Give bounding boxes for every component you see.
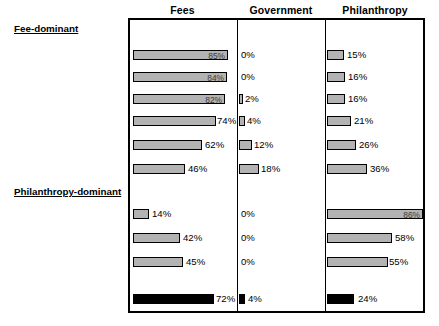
- bar-fees-social-services: [133, 116, 216, 126]
- bar-government-all-fields: [239, 294, 245, 304]
- bar-philanthropy-development-housing: [327, 94, 345, 104]
- bar-value-fees-culture-recreation: 84%: [207, 73, 224, 83]
- bar-philanthropy-health: [327, 257, 388, 267]
- bar-value-fees-health: 45%: [186, 257, 205, 267]
- bar-value-government-professional-unions: 0%: [241, 50, 255, 60]
- bar-value-philanthropy-foundations: 86%: [403, 210, 420, 220]
- column-divider-government-philanthropy: [325, 20, 327, 311]
- bar-fees-all-fields: [133, 294, 214, 304]
- bar-government-social-services: [239, 116, 245, 126]
- bar-value-government-foundations: 0%: [241, 209, 255, 219]
- group-label-philanthropy-dominant: Philanthropy-dominant: [14, 186, 121, 197]
- column-divider-fees-government: [237, 20, 239, 311]
- bar-value-philanthropy-health: 55%: [389, 257, 408, 267]
- bar-value-government-civic-advocacy: 0%: [241, 233, 255, 243]
- bar-philanthropy-culture-recreation: [327, 72, 345, 82]
- bar-value-fees-civic-advocacy: 42%: [183, 233, 202, 243]
- bar-philanthropy-all-fields: [327, 294, 354, 304]
- bar-value-government-environment: 18%: [261, 164, 280, 174]
- bar-fees-health: [133, 257, 183, 267]
- bar-fees-civic-advocacy: [133, 233, 180, 243]
- bar-government-environment: [239, 164, 259, 174]
- bar-value-fees-foundations: 14%: [152, 209, 171, 219]
- bar-philanthropy-foundations: 86%: [327, 209, 423, 219]
- bar-philanthropy-civic-advocacy: [327, 233, 392, 243]
- bar-philanthropy-social-services: [327, 116, 351, 126]
- bar-value-philanthropy-civic-advocacy: 58%: [395, 233, 414, 243]
- bar-fees-professional-unions: 85%: [133, 50, 228, 60]
- bar-value-philanthropy-social-services: 21%: [354, 116, 373, 126]
- bar-value-philanthropy-education: 26%: [359, 140, 378, 150]
- column-header-government: Government: [237, 4, 325, 16]
- bar-chart: Fees Government Philanthropy Fee-dominan…: [0, 0, 439, 326]
- bar-value-fees-all-fields: 72%: [216, 294, 235, 304]
- bar-value-government-culture-recreation: 0%: [241, 72, 255, 82]
- group-label-fee-dominant: Fee-dominant: [14, 23, 78, 34]
- bar-value-fees-education: 62%: [205, 140, 224, 150]
- bar-value-fees-social-services: 74%: [217, 116, 236, 126]
- bar-value-philanthropy-professional-unions: 15%: [347, 50, 366, 60]
- bar-value-fees-development-housing: 82%: [205, 95, 222, 105]
- bar-value-fees-environment: 46%: [188, 164, 207, 174]
- bar-fees-culture-recreation: 84%: [133, 72, 227, 82]
- bar-philanthropy-professional-unions: [327, 50, 344, 60]
- bar-fees-foundations: [133, 209, 149, 219]
- bar-value-government-development-housing: 2%: [245, 94, 259, 104]
- bar-value-philanthropy-all-fields: 24%: [358, 294, 377, 304]
- bar-philanthropy-education: [327, 140, 356, 150]
- bar-value-philanthropy-development-housing: 16%: [348, 94, 367, 104]
- bar-value-government-health: 0%: [241, 257, 255, 267]
- bar-fees-environment: [133, 164, 185, 174]
- bar-government-development-housing: [239, 94, 243, 104]
- column-header-fees: Fees: [128, 4, 237, 16]
- bar-value-government-all-fields: 4%: [248, 294, 262, 304]
- bar-value-government-education: 12%: [254, 140, 273, 150]
- column-header-philanthropy: Philanthropy: [325, 4, 425, 16]
- plot-frame: 85% 84% 82% 74% 62% 46% 14% 42% 45% 72% …: [128, 18, 425, 313]
- bar-fees-development-housing: 82%: [133, 94, 225, 104]
- bar-government-education: [239, 140, 252, 150]
- bar-philanthropy-environment: [327, 164, 367, 174]
- bar-value-fees-professional-unions: 85%: [208, 51, 225, 61]
- bar-value-philanthropy-culture-recreation: 16%: [348, 72, 367, 82]
- bar-fees-education: [133, 140, 202, 150]
- bar-value-government-social-services: 4%: [247, 116, 261, 126]
- bar-value-philanthropy-environment: 36%: [370, 164, 389, 174]
